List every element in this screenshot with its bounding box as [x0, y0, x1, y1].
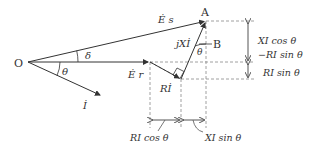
theta-origin-label: θ [62, 66, 68, 77]
leader-right [193, 120, 203, 132]
delta-arc [77, 51, 78, 62]
dim-upper-label-1: XI cos θ [257, 35, 296, 46]
phasor-diagram: O A B Ė s Ė r İ Rİ jXİ δ θ θ XI cos θ −R… [0, 0, 312, 155]
dim-upper-label-2: −RI sin θ [258, 49, 303, 60]
point-b-label: B [213, 38, 221, 51]
er-label: Ė r [127, 69, 144, 80]
point-a-label: A [200, 6, 210, 19]
i-label: İ [82, 100, 88, 111]
point-o-label: O [14, 57, 23, 70]
delta-label: δ [85, 50, 91, 61]
dim-right-label: XI sin θ [204, 132, 242, 143]
dim-left-label: RI cos θ [129, 132, 169, 143]
ri-label: Rİ [159, 83, 173, 94]
guide-lines [150, 21, 255, 128]
theta-arc-origin [57, 62, 60, 76]
es-label: Ė s [157, 14, 174, 25]
leader-left [158, 120, 165, 131]
jxi-label: jXİ [174, 38, 191, 49]
theta-b-label: θ [197, 47, 203, 57]
dim-lower-label: RI sin θ [262, 67, 300, 78]
